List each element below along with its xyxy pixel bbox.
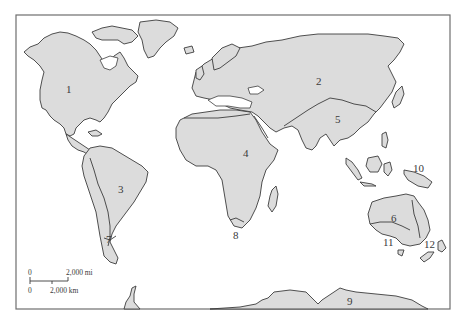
region-label-6: 6 — [391, 212, 397, 224]
scale-mi-start: 0 — [28, 268, 32, 277]
region-label-1: 1 — [66, 83, 72, 95]
region-label-4: 4 — [243, 147, 249, 159]
scale-km-end: 2,000 km — [50, 286, 79, 295]
region-label-8: 8 — [233, 229, 239, 241]
world-map: 1 2 3 4 5 6 7 8 9 10 11 12 0 2,000 mi 0 … — [0, 0, 464, 326]
region-label-12: 12 — [424, 238, 435, 250]
region-label-11: 11 — [383, 236, 394, 248]
iceland — [184, 46, 194, 54]
scale-km-start: 0 — [28, 286, 32, 295]
borneo — [366, 156, 382, 172]
region-label-3: 3 — [118, 183, 124, 195]
region-label-10: 10 — [413, 162, 425, 174]
region-label-9: 9 — [347, 295, 353, 307]
region-label-5: 5 — [335, 113, 341, 125]
region-label-2: 2 — [316, 75, 322, 87]
region-label-7: 7 — [106, 233, 112, 245]
scale-mi-end: 2,000 mi — [66, 268, 93, 277]
